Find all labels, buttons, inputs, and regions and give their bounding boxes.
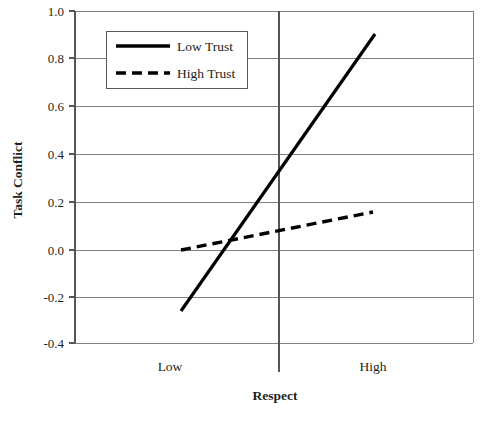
y-tick-label: -0.4 [43, 336, 64, 351]
legend-label-low-trust: Low Trust [177, 39, 233, 54]
y-tick-label: 0.8 [48, 51, 64, 66]
legend: Low Trust High Trust [106, 31, 247, 88]
x-axis-title: Respect [253, 388, 298, 403]
y-axis-title: Task Conflict [10, 141, 25, 219]
y-tick-label: 0.2 [48, 195, 64, 210]
chart-canvas: 1.0 0.8 0.6 0.4 0.2 0.0 -0.2 -0.4 Low Tr… [0, 0, 491, 423]
y-axis-ticks [69, 11, 75, 343]
y-tick-label: 0.4 [48, 147, 65, 162]
y-tick-labels: 1.0 0.8 0.6 0.4 0.2 0.0 -0.2 -0.4 [43, 4, 64, 351]
x-tick-label-high: High [360, 359, 387, 374]
x-tick-label-low: Low [158, 359, 183, 374]
legend-label-high-trust: High Trust [177, 66, 235, 81]
chart-figure: 1.0 0.8 0.6 0.4 0.2 0.0 -0.2 -0.4 Low Tr… [0, 0, 491, 423]
y-tick-label: -0.2 [43, 290, 64, 305]
y-tick-label: 0.0 [48, 243, 64, 258]
y-tick-label: 0.6 [48, 99, 65, 114]
y-tick-label: 1.0 [48, 4, 64, 19]
